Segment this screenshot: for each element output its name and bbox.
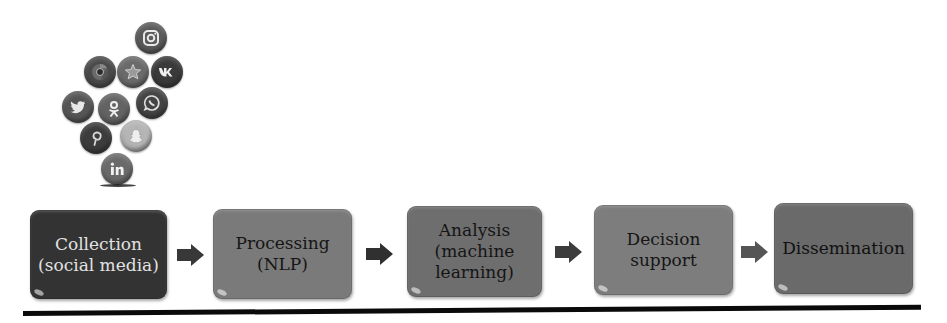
instagram-icon xyxy=(135,22,167,54)
arrow-right-icon xyxy=(555,241,582,263)
linkedin-icon xyxy=(101,153,133,185)
bottom-divider-line xyxy=(23,305,921,316)
snapchat-icon xyxy=(120,120,152,152)
stage-collection: Collection (social media) xyxy=(30,210,167,299)
arrow-right-icon xyxy=(741,241,768,263)
social-media-icon-cluster xyxy=(0,0,220,195)
twitter-icon xyxy=(62,91,94,123)
star-icon xyxy=(117,56,149,88)
linkedin-base-shadow xyxy=(100,184,136,187)
whatsapp-icon xyxy=(136,87,168,119)
stage-label: Analysis (machine learning) xyxy=(435,220,515,283)
stage-dissemination: Dissemination xyxy=(774,203,913,294)
arrow-right-icon xyxy=(366,243,393,265)
chrome-icon xyxy=(84,56,116,88)
odnoklassniki-icon xyxy=(98,93,130,125)
stage-label: Dissemination xyxy=(782,238,905,259)
stage-label: Collection (social media) xyxy=(38,234,159,276)
pinterest-icon xyxy=(80,122,112,154)
stage-label: Decision support xyxy=(627,229,701,271)
stage-analysis: Analysis (machine learning) xyxy=(407,206,542,297)
stage-label: Processing (NLP) xyxy=(235,233,329,275)
vk-icon xyxy=(151,56,183,88)
arrow-right-icon xyxy=(177,244,204,266)
stage-processing: Processing (NLP) xyxy=(213,209,352,299)
stage-decision-support: Decision support xyxy=(594,205,733,295)
